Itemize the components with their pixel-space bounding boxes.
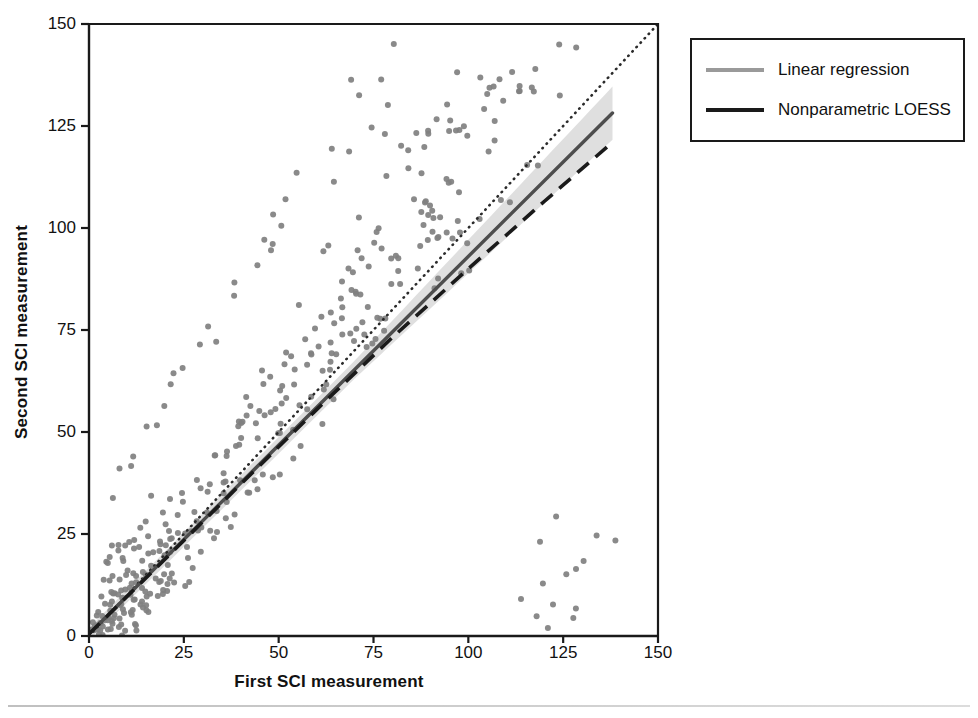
x-tick-label: 150 bbox=[644, 643, 672, 663]
y-tick-label: 75 bbox=[16, 320, 76, 340]
x-axis-title: First SCI measurement bbox=[0, 672, 658, 692]
y-tick-label: 125 bbox=[16, 116, 76, 136]
legend-label-loess: Nonparametric LOESS bbox=[778, 100, 951, 120]
x-tick-label: 100 bbox=[454, 643, 482, 663]
figure-container: First SCI measurement Second SCI measure… bbox=[0, 0, 978, 718]
legend-swatch-linear-regression bbox=[706, 68, 764, 72]
x-tick-label: 125 bbox=[549, 643, 577, 663]
legend-label-linear-regression: Linear regression bbox=[778, 60, 909, 80]
y-tick-label: 150 bbox=[16, 14, 76, 34]
y-tick-label: 50 bbox=[16, 422, 76, 442]
x-tick-label: 50 bbox=[269, 643, 288, 663]
y-tick-label: 25 bbox=[16, 524, 76, 544]
identity-reference-line bbox=[89, 24, 658, 636]
x-tick-label: 0 bbox=[84, 643, 93, 663]
legend: Linear regression Nonparametric LOESS bbox=[690, 38, 965, 142]
y-tick-label: 100 bbox=[16, 218, 76, 238]
legend-swatch-loess bbox=[706, 108, 764, 112]
y-tick-label: 0 bbox=[16, 626, 76, 646]
x-tick-label: 75 bbox=[364, 643, 383, 663]
scatter-points bbox=[89, 0, 619, 639]
legend-entry-loess: Nonparametric LOESS bbox=[706, 94, 951, 126]
x-tick-label: 25 bbox=[174, 643, 193, 663]
legend-entry-linear-regression: Linear regression bbox=[706, 54, 909, 86]
footer-rule bbox=[8, 705, 970, 707]
